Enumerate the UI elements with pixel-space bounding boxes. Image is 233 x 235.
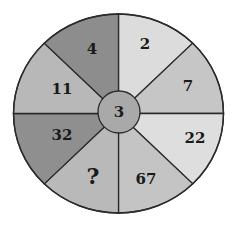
segment-value: 11 [52, 80, 73, 98]
center-value: 3 [114, 103, 124, 121]
segment-value: 22 [185, 129, 206, 147]
segment-value: 7 [183, 77, 193, 95]
unknown-value: ? [87, 163, 100, 189]
segment-value: 32 [52, 126, 73, 144]
segment-value: 4 [87, 40, 97, 58]
segment-value: 67 [136, 170, 157, 188]
segment-value: 2 [140, 35, 150, 53]
number-wheel-puzzle: 3 272267?32114 [0, 0, 233, 235]
